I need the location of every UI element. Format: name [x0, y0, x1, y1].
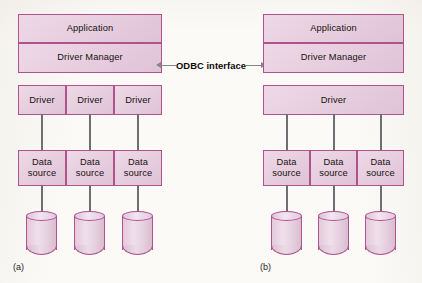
panel-a-driver-label-1: Driver: [29, 95, 54, 106]
panel-b-connector-driver-2: [333, 114, 335, 151]
panel-a-driver-manager-label: Driver Manager: [57, 52, 122, 63]
panel-a-connector-db-1: [41, 185, 43, 214]
panel-b-connector-db-2: [333, 185, 335, 214]
panel-a-database-cylinder-2: [74, 211, 105, 255]
panel-a-data-source-box-1: Datasource: [18, 150, 66, 186]
panel-b-connector-db-3: [380, 185, 382, 214]
panel-a-driver-box-3: Driver: [114, 85, 162, 115]
panel-b-data-source-label-1: Datasource: [272, 157, 301, 179]
panel-b-database-cylinder-3: [365, 211, 396, 255]
panel-b-driver-manager-label: Driver Manager: [301, 52, 366, 63]
panel-a-data-source-box-3: Datasource: [114, 150, 162, 186]
panel-b-driver-manager-box: Driver Manager: [263, 43, 404, 73]
panel-b-data-source-label-2: Datasource: [319, 157, 348, 179]
panel-a-connector-driver-2: [89, 114, 91, 151]
odbc-architecture-diagram: Application Driver Manager Driver Driver…: [0, 0, 422, 283]
odbc-interface-annotation: ODBC interface: [156, 57, 264, 73]
odbc-interface-label: ODBC interface: [176, 60, 246, 71]
panel-b-database-cylinder-1: [271, 211, 302, 255]
panel-a-driver-manager-box: Driver Manager: [18, 43, 162, 73]
panel-a-application-label: Application: [67, 23, 114, 34]
panel-b-data-source-box-3: Datasource: [357, 150, 404, 186]
panel-b-application-label: Application: [310, 23, 357, 34]
panel-a-database-cylinder-3: [122, 211, 153, 255]
panel-b-data-source-box-1: Datasource: [263, 150, 310, 186]
panel-a-application-box: Application: [18, 14, 162, 43]
panel-b-driver-box: Driver: [263, 85, 404, 115]
panel-a-driver-box-1: Driver: [18, 85, 66, 115]
panel-a-driver-label-2: Driver: [77, 95, 102, 106]
arrow-left-icon: [156, 61, 176, 70]
panel-a-data-source-label-2: Datasource: [76, 157, 105, 179]
panel-a-driver-label-3: Driver: [125, 95, 150, 106]
panel-b-caption: (b): [260, 262, 271, 272]
panel-a-data-source-box-2: Datasource: [66, 150, 114, 186]
panel-a-connector-driver-1: [41, 114, 43, 151]
panel-a-data-source-label-1: Datasource: [28, 157, 57, 179]
panel-b-data-source-label-3: Datasource: [366, 157, 395, 179]
panel-b-data-source-box-2: Datasource: [310, 150, 357, 186]
panel-a-connector-driver-3: [137, 114, 139, 151]
panel-b-connector-driver-3: [380, 114, 382, 151]
panel-a-driver-box-2: Driver: [66, 85, 114, 115]
panel-b-connector-db-1: [286, 185, 288, 214]
panel-b-driver-label: Driver: [321, 95, 346, 106]
panel-b-connector-driver-1: [286, 114, 288, 151]
panel-b-database-cylinder-2: [318, 211, 349, 255]
panel-a-caption: (a): [13, 262, 24, 272]
panel-b-application-box: Application: [263, 14, 404, 43]
panel-a-connector-db-2: [89, 185, 91, 214]
panel-a-data-source-label-3: Datasource: [124, 157, 153, 179]
panel-a-database-cylinder-1: [26, 211, 57, 255]
panel-a-connector-db-3: [137, 185, 139, 214]
